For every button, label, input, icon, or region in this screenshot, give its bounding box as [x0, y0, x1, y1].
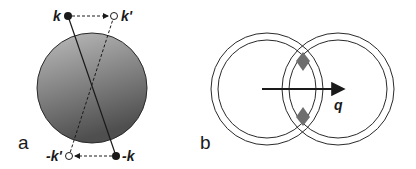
neg-k-label: -k — [122, 149, 134, 163]
k-prime-point-icon — [111, 13, 118, 20]
k-label: k — [53, 9, 61, 23]
neg-k-prime-label: -k' — [46, 149, 62, 163]
neg-k-point-icon — [112, 152, 120, 160]
k-prime-label: k' — [121, 9, 132, 23]
upper-overlap-diamond-icon — [296, 52, 310, 71]
panel-a-label: a — [18, 133, 29, 152]
panel-a — [37, 12, 147, 160]
lower-overlap-diamond-icon — [296, 107, 310, 126]
q-label: q — [334, 98, 343, 112]
fermi-sphere — [37, 33, 147, 143]
panel-b-label: b — [200, 133, 211, 152]
k-point-icon — [64, 12, 72, 20]
neg-k-prime-point-icon — [66, 153, 73, 160]
